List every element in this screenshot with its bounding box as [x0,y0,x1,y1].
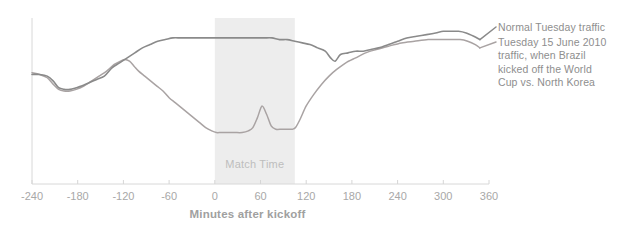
match-time-band-label: Match Time [215,158,295,170]
legend-connector-group [480,27,496,48]
x-axis-tick-marks [32,180,489,184]
x-axis-title: Minutes after kickoff [0,208,495,220]
legend-entry-normal: Normal Tuesday traffic [498,21,605,34]
x-axis-tick-label--120: -120 [112,190,134,202]
x-axis-tick-label--60: -60 [161,190,177,202]
x-axis-tick-label-240: 240 [388,190,406,202]
x-axis-tick-label--240: -240 [21,190,43,202]
x-axis-tick-label-0: 0 [212,190,218,202]
x-axis-tick-label--180: -180 [67,190,89,202]
x-axis-tick-label-120: 120 [297,190,315,202]
x-axis-tick-label-60: 60 [254,190,266,202]
legend-leader-normal [480,27,496,40]
x-axis-tick-label-180: 180 [343,190,361,202]
x-axis-tick-label-360: 360 [480,190,498,202]
legend-label-match-day: Tuesday 15 June 2010 traffic, when Brazi… [498,36,606,88]
legend-leader-match-day [480,42,496,48]
legend-entry-match-day: Tuesday 15 June 2010 traffic, when Brazi… [498,36,614,90]
x-axis-tick-label-300: 300 [434,190,452,202]
legend-label-normal: Normal Tuesday traffic [498,21,605,33]
chart-container: Normal Tuesday traffic Tuesday 15 June 2… [0,0,619,239]
